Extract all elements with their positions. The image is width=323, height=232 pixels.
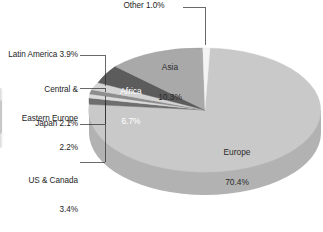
callout-us-canada-line1: US & Canada bbox=[0, 176, 78, 186]
slice-label-africa: Africa 6.7% bbox=[105, 66, 157, 146]
callout-us-canada-line2: 3.4% bbox=[0, 205, 78, 215]
slice-label-europe-name: Europe bbox=[208, 147, 266, 157]
callout-us-canada: US & Canada 3.4% bbox=[0, 157, 78, 232]
pie-chart: Other 1.0% Latin America 3.9% Central & … bbox=[0, 0, 323, 232]
slice-label-europe-pct: 70.4% bbox=[208, 177, 266, 187]
slice-label-africa-pct: 6.7% bbox=[105, 116, 157, 126]
callout-latin-america: Latin America 3.9% bbox=[0, 50, 78, 60]
callout-cee-line3: 2.2% bbox=[0, 143, 78, 153]
callout-japan: Japan 2.1% bbox=[0, 119, 78, 129]
slice-label-africa-name: Africa bbox=[105, 86, 157, 96]
leader-line-other bbox=[183, 7, 205, 45]
callout-other: Other 1.0% bbox=[105, 1, 183, 11]
slice-label-europe: Europe 70.4% bbox=[208, 127, 266, 207]
callout-cee-line1: Central & bbox=[0, 85, 78, 95]
